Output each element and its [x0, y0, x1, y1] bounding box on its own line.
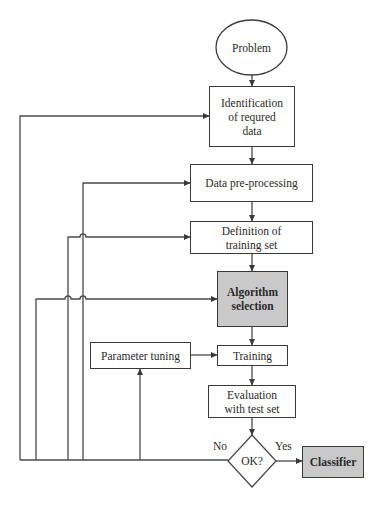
definition-line2: training set: [226, 238, 277, 252]
identification-line2: of requred: [228, 110, 276, 124]
evaluation-line2: with test set: [225, 402, 280, 416]
evaluation-line1: Evaluation: [227, 388, 277, 402]
training-box: Training: [217, 345, 288, 366]
algorithm-line1: Algorithm: [227, 285, 278, 299]
algorithm-line2: selection: [231, 299, 273, 313]
training-text: Training: [233, 349, 272, 363]
identification-line3: data: [242, 124, 261, 138]
classifier-text: Classifier: [310, 455, 357, 469]
classifier-box: Classifier: [302, 446, 364, 478]
no-label: No: [213, 440, 227, 452]
feedback-to-preprocessing: [83, 183, 190, 460]
parameter-tuning-text: Parameter tuning: [101, 349, 180, 363]
problem-text: Problem: [232, 42, 271, 54]
parameter-tuning-box: Parameter tuning: [90, 342, 191, 369]
identification-line1: Identification: [221, 96, 283, 110]
identification-box: Identification of requred data: [209, 86, 295, 147]
feedback-to-algorithm: [36, 296, 217, 460]
decision-label: OK?: [228, 449, 276, 473]
yes-label: Yes: [275, 440, 292, 452]
preprocessing-box: Data pre-processing: [190, 164, 313, 202]
problem-label: Problem: [216, 20, 287, 75]
definition-box: Definition of training set: [190, 221, 313, 254]
decision-text: OK?: [241, 455, 263, 467]
evaluation-box: Evaluation with test set: [208, 385, 296, 418]
definition-line1: Definition of: [222, 224, 282, 238]
feedback-to-identification: [20, 116, 209, 460]
algorithm-selection-box: Algorithm selection: [217, 271, 288, 327]
preprocessing-text: Data pre-processing: [205, 176, 297, 190]
